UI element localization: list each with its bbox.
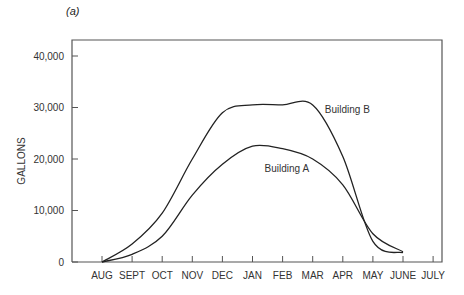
y-axis: 010,00020,00030,00040,000 — [33, 51, 78, 268]
x-tick-label: OCT — [152, 270, 173, 281]
series-annotation: Building B — [325, 104, 370, 115]
x-tick-label: FEB — [273, 270, 293, 281]
series-labels: Building ABuilding B — [265, 104, 371, 174]
series-annotation: Building A — [265, 163, 310, 174]
x-tick-label: DEC — [212, 270, 233, 281]
x-tick-label: APR — [333, 270, 354, 281]
x-axis: AUGSEPTOCTNOVDECJANFEBMARAPRMAYJUNEJULY — [91, 256, 445, 281]
x-tick-label: AUG — [91, 270, 113, 281]
y-tick-label: 10,000 — [33, 205, 64, 216]
x-tick-label: JUNE — [390, 270, 416, 281]
y-tick-label: 40,000 — [33, 51, 64, 62]
x-tick-label: MAY — [362, 270, 383, 281]
y-tick-label: 30,000 — [33, 102, 64, 113]
y-axis-title: GALLONS — [16, 137, 27, 185]
plot-frame — [72, 40, 442, 262]
x-tick-label: JAN — [243, 270, 262, 281]
series-lines — [102, 101, 403, 262]
y-tick-label: 20,000 — [33, 154, 64, 165]
series-line — [102, 101, 403, 262]
line-chart: 010,00020,00030,00040,000 AUGSEPTOCTNOVD… — [0, 0, 464, 295]
x-tick-label: NOV — [181, 270, 203, 281]
series-line — [102, 145, 403, 262]
y-tick-label: 0 — [58, 257, 64, 268]
x-tick-label: JULY — [421, 270, 445, 281]
x-tick-label: SEPT — [119, 270, 145, 281]
x-tick-label: MAR — [302, 270, 324, 281]
